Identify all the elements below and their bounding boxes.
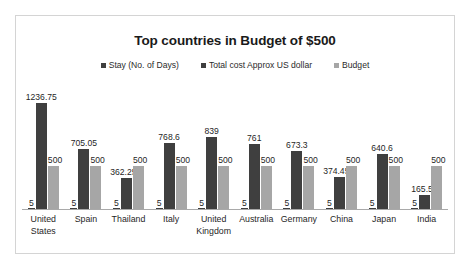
x-axis-label-india: India [405, 214, 448, 237]
bar-label-budget-japan: 500 [389, 155, 403, 165]
bar-label-stay-spain: 5 [72, 198, 77, 208]
bar-group-australia: 5 761 500 [235, 76, 278, 209]
bar-group-italy: 5 768.6 500 [150, 76, 193, 209]
bar-label-budget-united-kingdom: 500 [218, 155, 232, 165]
bar-budget-australia[interactable]: 500 [261, 166, 272, 209]
bar-total-germany[interactable]: 673.3 [291, 151, 302, 209]
legend-label-budget: Budget [342, 60, 369, 70]
legend-swatch-stay [101, 63, 106, 68]
bar-label-stay-australia: 5 [242, 198, 247, 208]
x-axis-label-australia: Australia [235, 214, 278, 237]
x-axis-label-italy: Italy [150, 214, 193, 237]
bar-budget-india[interactable]: 500 [431, 166, 442, 209]
bar-budget-japan[interactable]: 500 [389, 166, 400, 209]
bar-total-china[interactable]: 374.45 [334, 177, 345, 209]
bar-group-thailand: 5 362.25 500 [107, 76, 150, 209]
bar-group-spain: 5 705.05 500 [65, 76, 108, 209]
bar-group-united-kingdom: 5 839 500 [192, 76, 235, 209]
bar-group-japan: 5 640.6 500 [363, 76, 406, 209]
x-axis-label-spain: Spain [65, 214, 108, 237]
legend-item-total-cost[interactable]: Total cost Approx US dollar [201, 60, 312, 70]
bar-group-germany: 5 673.3 500 [278, 76, 321, 209]
bar-label-budget-united-states: 500 [48, 155, 62, 165]
legend-swatch-budget [334, 63, 339, 68]
x-axis-line [22, 209, 448, 210]
bar-total-spain[interactable]: 705.05 [78, 149, 89, 209]
bar-total-united-kingdom[interactable]: 839 [206, 137, 217, 209]
bar-label-stay-india: 5 [412, 198, 417, 208]
bar-group-united-states: 5 1236.75 500 [22, 76, 65, 209]
x-axis-label-germany: Germany [278, 214, 321, 237]
bar-groups: 5 1236.75 500 5 705.05 500 [22, 76, 448, 209]
bar-label-budget-spain: 500 [90, 155, 104, 165]
bar-label-stay-japan: 5 [370, 198, 375, 208]
bar-budget-italy[interactable]: 500 [176, 166, 187, 209]
bar-label-budget-china: 500 [346, 155, 360, 165]
bar-label-total-united-states: 1236.75 [26, 92, 57, 102]
chart-legend: Stay (No. of Days) Total cost Approx US … [16, 60, 454, 70]
bar-label-total-spain: 705.05 [71, 138, 97, 148]
plot-area: 5 1236.75 500 5 705.05 500 [22, 76, 448, 210]
bar-label-total-japan: 640.6 [371, 143, 393, 153]
bar-total-thailand[interactable]: 362.25 [121, 178, 132, 209]
legend-item-budget[interactable]: Budget [334, 60, 369, 70]
bar-label-budget-australia: 500 [261, 155, 275, 165]
bar-total-australia[interactable]: 761 [249, 144, 260, 209]
bar-total-japan[interactable]: 640.6 [377, 154, 388, 209]
bar-label-stay-italy: 5 [157, 198, 162, 208]
bar-label-budget-germany: 500 [303, 155, 317, 165]
bar-label-stay-united-kingdom: 5 [199, 198, 204, 208]
chart-title: Top countries in Budget of $500 [16, 33, 454, 48]
bar-budget-spain[interactable]: 500 [90, 166, 101, 209]
bar-total-india[interactable]: 165.5 [419, 195, 430, 209]
bar-group-china: 5 374.45 500 [320, 76, 363, 209]
legend-item-stay[interactable]: Stay (No. of Days) [101, 60, 179, 70]
bar-label-budget-thailand: 500 [133, 155, 147, 165]
legend-swatch-total-cost [201, 63, 206, 68]
bar-label-budget-india: 500 [431, 155, 445, 165]
bar-label-budget-italy: 500 [176, 155, 190, 165]
bar-label-stay-united-states: 5 [29, 198, 34, 208]
x-axis-label-united-kingdom: United Kingdom [192, 214, 235, 237]
bar-label-total-germany: 673.3 [286, 140, 308, 150]
bar-label-stay-germany: 5 [284, 198, 289, 208]
x-axis-label-united-states: United States [22, 214, 65, 237]
bar-total-italy[interactable]: 768.6 [164, 143, 175, 209]
bar-budget-china[interactable]: 500 [346, 166, 357, 209]
bar-total-united-states[interactable]: 1236.75 [36, 103, 47, 209]
bar-budget-united-states[interactable]: 500 [48, 166, 59, 209]
bar-budget-germany[interactable]: 500 [303, 166, 314, 209]
bar-label-total-india: 165.5 [411, 184, 433, 194]
bar-label-total-italy: 768.6 [158, 132, 180, 142]
bar-label-total-australia: 761 [247, 133, 261, 143]
x-axis-label-china: China [320, 214, 363, 237]
legend-label-stay: Stay (No. of Days) [109, 60, 179, 70]
x-axis-label-thailand: Thailand [107, 214, 150, 237]
bar-budget-thailand[interactable]: 500 [133, 166, 144, 209]
bar-label-stay-thailand: 5 [114, 198, 119, 208]
legend-label-total-cost: Total cost Approx US dollar [209, 60, 312, 70]
bar-budget-united-kingdom[interactable]: 500 [218, 166, 229, 209]
bar-label-stay-china: 5 [327, 198, 332, 208]
chart-container: Top countries in Budget of $500 Stay (No… [15, 15, 455, 254]
bar-label-total-united-kingdom: 839 [205, 126, 219, 136]
x-axis-labels: United States Spain Thailand Italy Unite… [22, 214, 448, 237]
x-axis-label-japan: Japan [363, 214, 406, 237]
bar-group-india: 5 165.5 500 [405, 76, 448, 209]
